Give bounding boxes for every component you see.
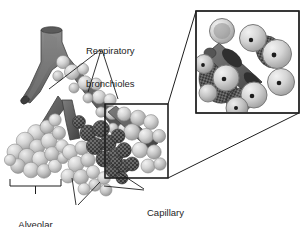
label-capillary-network-line1: Capillary [147,207,184,218]
alveolar-sac-bracket [10,179,61,194]
label-alveoli: Alveoli [64,209,92,227]
label-alveolar-sac: Alveolar sac [6,197,65,227]
alveolar-sac-cluster [4,114,68,178]
label-capillary-network: Capillary network [147,185,184,227]
callout-source-contents [108,106,166,173]
label-alveolar-sac-line1: Alveolar [6,219,65,227]
callout-leader-bottom [168,113,299,178]
label-respiratory-bronchioles: Respiratory bronchioles [86,23,135,111]
label-respiratory-bronchioles-line2: bronchioles [86,78,135,89]
callout-leader-top [168,11,196,104]
label-respiratory-bronchioles-line1: Respiratory [86,45,135,56]
figure-canvas: Respiratory bronchioles Alveolar sac Alv… [0,0,306,227]
